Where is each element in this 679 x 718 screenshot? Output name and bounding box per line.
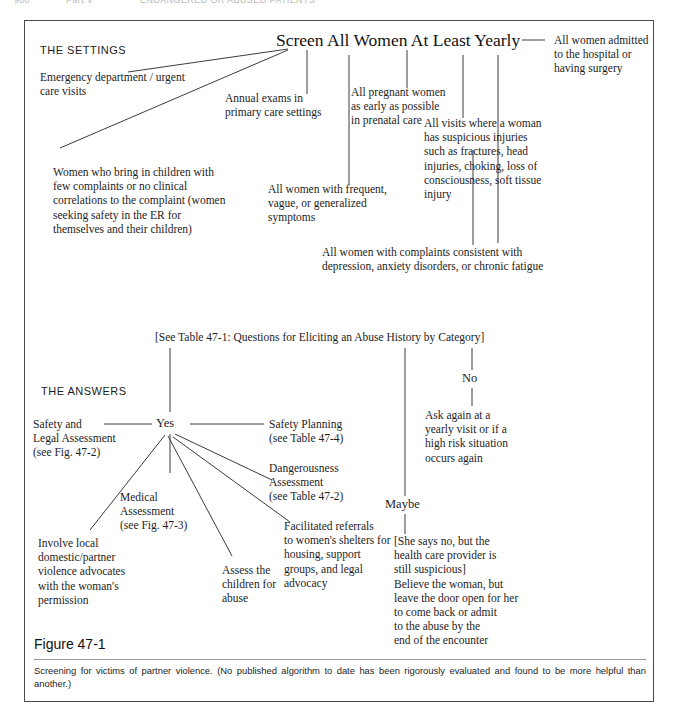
running-head-title: ENDANGERED OR ABUSED PATIENTS [140,0,315,5]
setting-suspicious-injuries: All visits where a woman has suspicious … [424,116,584,201]
answer-involve-local-advocates: Involve local domestic/partner violence … [38,536,178,607]
answer-medical-assessment: Medical Assessment (see Fig. 47-3) [120,490,230,533]
setting-annual-exams: Annual exams in primary care settings [225,91,355,119]
figure-caption: Screening for victims of partner violenc… [34,664,646,690]
branch-yes: Yes [156,416,174,431]
figure-caption-rule [34,659,646,660]
setting-depression-anxiety: All women with complaints consistent wit… [322,245,652,273]
setting-women-bring-children: Women who bring in children with few com… [53,165,303,236]
figure-page: 900 Part V ENDANGERED OR ABUSED PATIENTS [0,0,679,718]
answer-safety-planning: Safety Planning (see Table 47-4) [269,417,399,445]
answer-she-says-no: [She says no, but the health care provid… [394,534,584,648]
answer-ask-again: Ask again at a yearly visit or if a high… [425,408,575,465]
section-label-answers: THE ANSWERS [41,385,127,397]
table-reference-note: [See Table 47-1: Questions for Eliciting… [155,331,484,343]
running-head-part: Part V [66,0,93,5]
setting-admitted-to-hospital: All women admitted to the hospital or ha… [554,33,674,76]
section-label-settings: THE SETTINGS [40,44,126,56]
running-head-page-number: 900 [14,0,30,5]
running-head: 900 Part V ENDANGERED OR ABUSED PATIENTS [0,0,679,9]
setting-frequent-vague-symptoms: All women with frequent, vague, or gener… [268,182,428,225]
answer-dangerousness-assessment: Dangerousness Assessment (see Table 47-2… [269,461,399,504]
answer-assess-children: Assess the children for abuse [222,563,322,606]
figure-main-title: Screen All Women At Least Yearly [276,30,520,51]
answer-safety-legal-assessment: Safety and Legal Assessment (see Fig. 47… [33,417,143,460]
figure-frame-right-edge [653,20,654,702]
branch-no: No [462,371,477,386]
figure-number: Figure 47-1 [34,636,106,652]
